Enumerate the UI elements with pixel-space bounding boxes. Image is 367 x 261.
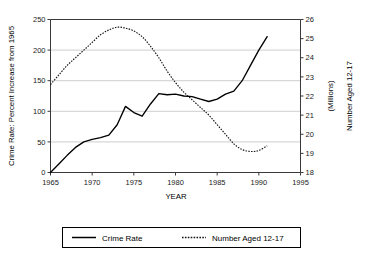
y2-tick-label: 19	[306, 149, 314, 158]
data-series-layer	[51, 27, 268, 172]
x-tick-label: 1995	[292, 178, 309, 187]
y2-tick-label: 24	[306, 53, 314, 62]
y2-axis-title: Number Aged 12-17	[345, 61, 354, 131]
y-tick-label: 0	[41, 168, 45, 177]
y-tick-label: 100	[33, 107, 46, 116]
y2-tick-label: 21	[306, 111, 314, 120]
y2-tick-label: 18	[306, 168, 314, 177]
y-tick-label: 50	[37, 138, 45, 147]
y2-tick-label: 25	[306, 34, 314, 43]
legend-label-crime-rate: Crime Rate	[102, 234, 143, 243]
x-tick-label: 1980	[167, 178, 184, 187]
y-axis-title: Crime Rate: Percent Increase from 1965	[7, 25, 16, 166]
y2-tick-label: 20	[306, 130, 314, 139]
x-tick-label: 1990	[250, 178, 267, 187]
chart-legend: Crime Rate Number Aged 12-17	[63, 228, 301, 248]
y-tick-label: 200	[33, 46, 46, 55]
legend-label-number-aged: Number Aged 12-17	[212, 234, 284, 243]
y2-tick-labels: 181920212223242526	[306, 15, 314, 177]
y2-axis-subtitle: (Millions)	[326, 80, 335, 112]
chart-figure: 1965197019751980198519901995 05010015020…	[0, 0, 367, 261]
y-tick-label: 150	[33, 76, 46, 85]
y2-tick-label: 26	[306, 15, 314, 24]
x-tick-label: 1985	[209, 178, 226, 187]
x-tick-label: 1970	[84, 178, 101, 187]
tick-marks	[48, 20, 304, 176]
y-tick-label: 250	[33, 15, 46, 24]
x-tick-labels: 1965197019751980198519901995	[42, 178, 309, 187]
y2-tick-label: 23	[306, 73, 314, 82]
x-tick-label: 1965	[42, 178, 59, 187]
series-line-crime-rate	[51, 37, 268, 173]
x-axis-title: YEAR	[165, 192, 187, 201]
gridlines	[51, 20, 301, 142]
chart-svg: 1965197019751980198519901995 05010015020…	[0, 0, 367, 261]
y2-tick-label: 22	[306, 92, 314, 101]
x-tick-label: 1975	[125, 178, 142, 187]
y-tick-labels: 050100150200250	[33, 15, 46, 177]
